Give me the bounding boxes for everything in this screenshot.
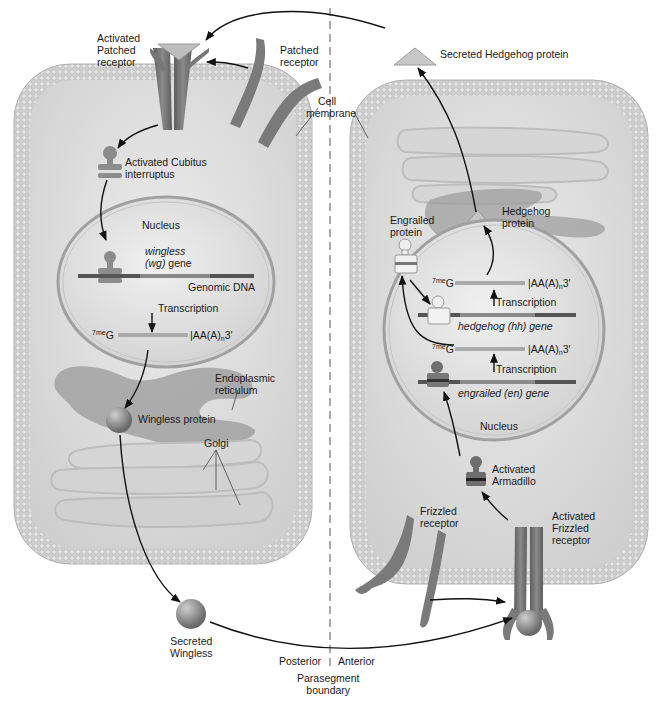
label-activated-cubitus: Activated Cubitus interruptus: [125, 156, 207, 180]
label-activated-armadillo: Activated Armadillo: [492, 463, 536, 487]
label-en-mrna-cap: 7meG: [432, 343, 454, 355]
secreted-wingless-icon: [176, 599, 206, 629]
label-secreted-hedgehog: Secreted Hedgehog protein: [440, 48, 568, 60]
left-golgi: [51, 440, 273, 527]
label-hh-gene: hedgehog (hh) gene: [458, 320, 553, 332]
label-wingless-protein: Wingless protein: [138, 413, 216, 425]
label-anterior: Anterior: [338, 655, 375, 667]
label-right-nucleus: Nucleus: [480, 420, 518, 432]
label-activated-patched-receptor: Activated Patched receptor: [97, 32, 140, 68]
label-golgi: Golgi: [204, 437, 229, 449]
label-parasegment-boundary: Parasegment boundary: [297, 672, 359, 696]
label-genomic-dna: Genomic DNA: [188, 281, 255, 293]
wingless-bound-icon: [516, 610, 542, 636]
label-patched-receptor: Patched receptor: [280, 44, 319, 68]
wingless-protein-icon: [106, 407, 132, 433]
label-wingless-gene: wingless (wg) gene: [145, 245, 192, 269]
label-en-gene: engrailed (en) gene: [458, 387, 549, 399]
label-posterior: Posterior: [279, 655, 321, 667]
label-left-mrna-cap: 7meG: [92, 329, 114, 341]
label-activated-frizzled: Activated Frizzled receptor: [552, 510, 595, 546]
label-hh-transcription: Transcription: [496, 296, 556, 308]
secreted-hedgehog-icon: [394, 48, 436, 65]
label-en-polya: |AA(A)n3′: [528, 343, 570, 355]
label-left-nucleus: Nucleus: [142, 219, 180, 231]
label-en-transcription: Transcription: [496, 363, 556, 375]
label-frizzled-receptor: Frizzled receptor: [420, 505, 459, 529]
label-left-polya: |AA(A)n3′: [190, 329, 232, 341]
label-hh-polya: |AA(A)n3′: [528, 277, 570, 289]
label-er: Endoplasmic reticulum: [215, 372, 275, 396]
label-left-transcription: Transcription: [158, 302, 218, 314]
right-cell: [350, 80, 648, 584]
label-hedgehog-protein: Hedgehog protein: [502, 205, 550, 229]
label-cell-membrane: Cell membrane: [306, 95, 356, 119]
label-engrailed-protein: Engrailed protein: [390, 214, 434, 238]
label-secreted-wingless: Secreted Wingless: [170, 635, 213, 659]
label-hh-mrna-cap: 7meG: [432, 277, 454, 289]
